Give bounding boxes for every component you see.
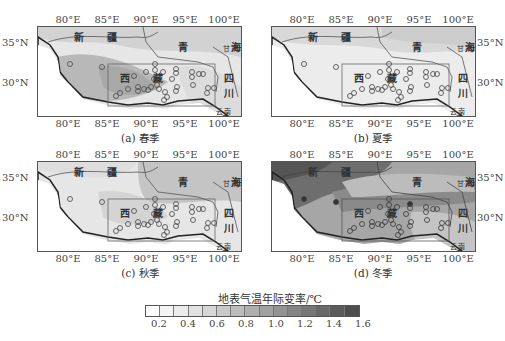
x-tick-bottom: 100°E [442,253,473,264]
x-tick: 95°E [406,14,431,25]
label-sichuan-1: 四 [224,70,234,85]
colorbar [145,305,360,317]
x-tick: 80°E [289,14,314,25]
x-tick-bottom: 90°E [367,253,392,264]
panel-a-spring: 80°E 85°E 90°E 95°E 100°E 35°N 30°N [0,0,250,145]
x-tick-bottom: 80°E [55,118,80,129]
x-tick-bottom: 90°E [367,118,392,129]
label-xinjiang: 新 疆 [74,164,127,179]
colorbar-tick: 1.6 [355,318,371,329]
colorbar-tick: 1.0 [268,318,284,329]
x-tick-bottom: 80°E [289,118,314,129]
x-tick-bottom: 80°E [55,253,80,264]
x-tick: 90°E [367,14,392,25]
y-tick-right: 35°N [477,37,503,48]
x-tick-bottom: 100°E [442,118,473,129]
colorbar-swatch [231,306,245,316]
x-tick: 85°E [94,149,119,160]
colorbar-swatch [330,306,344,316]
x-tick-bottom: 90°E [133,118,158,129]
y-tick: 35°N [2,37,28,48]
label-gansu: 甘肃 [223,43,239,53]
colorbar-swatch [302,306,316,316]
colorbar-swatch [245,306,259,316]
label-xinjiang: 新 疆 [74,29,127,44]
label-sichuan-2: 川 [224,85,234,100]
x-tick-bottom: 90°E [133,253,158,264]
panel-caption: (a) 春季 [121,130,159,145]
x-tick: 90°E [133,149,158,160]
x-tick-bottom: 85°E [94,118,119,129]
x-tick: 95°E [172,149,197,160]
panel-b-summer: 80°E 85°E 90°E 95°E 100°E [255,0,505,145]
panel-c-autumn: 80°E 85°E 90°E 95°E 100°E 35°N 30°N [0,145,250,290]
colorbar-swatch [316,306,330,316]
label-yunnan: 云南 [216,241,232,251]
colorbar-swatch [174,306,188,316]
colorbar-swatch [160,306,174,316]
label-sichuan-1: 四 [458,205,468,220]
x-tick-bottom: 100°E [208,118,239,129]
x-tick: 95°E [172,14,197,25]
y-tick-right: 30°N [477,212,503,223]
x-tick-bottom: 85°E [328,118,353,129]
label-yunnan: 云南 [450,106,466,116]
label-xinjiang: 新 疆 [308,29,361,44]
x-tick: 100°E [208,14,239,25]
x-tick-bottom: 85°E [94,253,119,264]
map-winter: 新 疆 青 海 甘肃 西 藏 四 川 云南 [271,161,476,252]
label-xizang: 西 藏 [354,205,407,220]
x-tick-bottom: 95°E [406,118,431,129]
y-tick-right: 35°N [477,172,503,183]
label-sichuan-2: 川 [458,85,468,100]
x-tick: 90°E [133,14,158,25]
label-xizang: 西 藏 [120,205,173,220]
x-tick: 100°E [442,149,473,160]
label-sichuan-2: 川 [224,220,234,235]
x-tick: 80°E [55,149,80,160]
colorbar-swatch [345,306,359,316]
y-tick-right: 30°N [477,77,503,88]
colorbar-tick: 0.2 [151,318,167,329]
x-tick: 95°E [406,149,431,160]
colorbar-swatch [217,306,231,316]
x-tick: 85°E [94,14,119,25]
label-gansu: 甘肃 [457,43,473,53]
label-yunnan: 云南 [450,241,466,251]
x-tick: 80°E [55,14,80,25]
x-tick-bottom: 80°E [289,253,314,264]
colorbar-swatch [274,306,288,316]
x-tick: 80°E [289,149,314,160]
x-tick: 85°E [328,14,353,25]
colorbar-swatch [189,306,203,316]
label-xizang: 西 藏 [120,70,173,85]
map-autumn: 新 疆 青 海 甘肃 西 藏 四 川 云南 [37,161,242,252]
colorbar-title: 地表气温年际变率/℃ [218,290,322,306]
x-tick: 100°E [208,149,239,160]
label-yunnan: 云南 [216,106,232,116]
label-gansu: 甘肃 [223,178,239,188]
colorbar-tick: 1.4 [326,318,342,329]
colorbar-tick: 0.8 [238,318,254,329]
y-tick: 30°N [2,212,28,223]
map-summer: 新 疆 青 海 甘肃 西 藏 四 川 云南 [271,26,476,117]
label-sichuan-1: 四 [458,70,468,85]
colorbar-tick: 1.2 [297,318,313,329]
label-gansu: 甘肃 [457,178,473,188]
x-tick-bottom: 100°E [208,253,239,264]
x-tick-bottom: 95°E [172,253,197,264]
x-tick: 100°E [442,14,473,25]
panel-caption: (d) 冬季 [354,265,392,280]
y-tick: 30°N [2,77,28,88]
y-tick: 35°N [2,172,28,183]
x-tick-bottom: 85°E [328,253,353,264]
label-xizang: 西 藏 [354,70,407,85]
panel-d-winter: 80°E 85°E 90°E 95°E 100°E [255,145,505,290]
colorbar-swatch [146,306,160,316]
panel-caption: (b) 夏季 [354,130,392,145]
colorbar-tick: 0.6 [209,318,225,329]
panel-caption: (c) 秋季 [121,265,158,280]
colorbar-tick: 0.4 [180,318,196,329]
x-tick: 85°E [328,149,353,160]
colorbar-swatch [203,306,217,316]
